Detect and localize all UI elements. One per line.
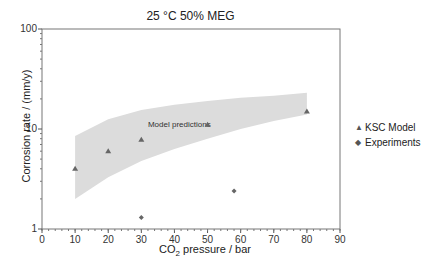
- experiment-point: [232, 188, 237, 193]
- x-tick-label: 20: [103, 234, 115, 245]
- y-axis-label: Corrosion rate / (mm/y): [20, 46, 32, 206]
- band-label: Model predictions: [148, 120, 211, 129]
- legend-item-ksc-model: ▲ KSC Model: [355, 120, 421, 135]
- x-tick-label: 0: [39, 234, 45, 245]
- x-tick-label: 90: [334, 234, 346, 245]
- x-tick-label: 10: [70, 234, 82, 245]
- legend-item-experiments: ◆ Experiments: [355, 135, 421, 150]
- experiment-point: [139, 215, 144, 220]
- x-tick-label: 30: [136, 234, 148, 245]
- x-tick-label: 70: [268, 234, 280, 245]
- x-tick-label: 80: [301, 234, 313, 245]
- y-tick-label: 1: [31, 223, 37, 234]
- triangle-marker-icon: ▲: [355, 123, 363, 132]
- y-tick-label: 100: [20, 23, 37, 34]
- diamond-marker-icon: ◆: [355, 138, 363, 147]
- x-axis-label: CO2 pressure / bar: [150, 243, 260, 258]
- model-prediction-band: [75, 93, 307, 199]
- legend: ▲ KSC Model ◆ Experiments: [355, 120, 421, 150]
